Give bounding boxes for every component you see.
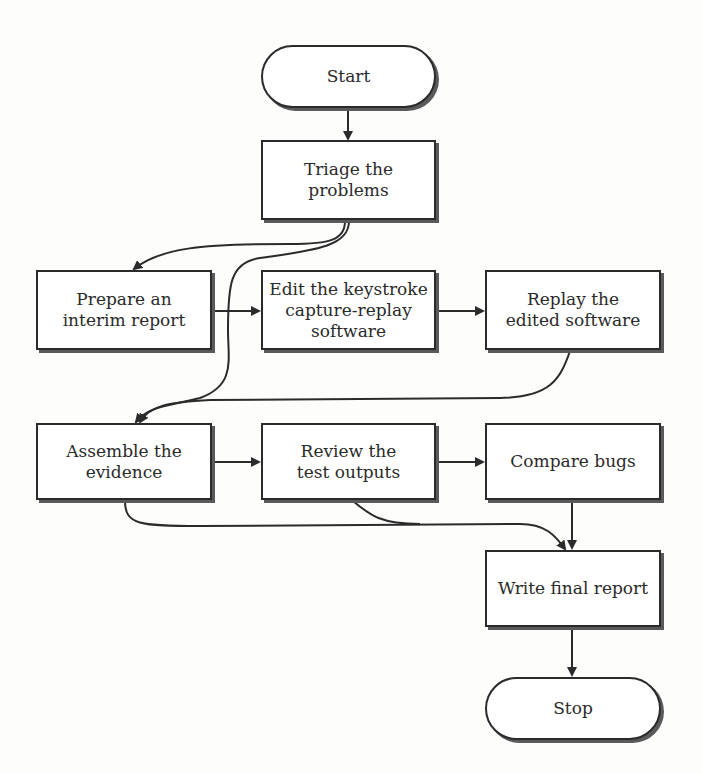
edge-triage-prepare: [134, 221, 345, 269]
compare-process: Compare bugs: [485, 423, 661, 500]
stop-terminal: Stop: [485, 677, 661, 740]
flowchart-canvas: Start Triage the problems Prepare an int…: [0, 0, 702, 773]
assemble-label: Assemble the evidence: [66, 441, 182, 483]
connectors: [0, 0, 702, 773]
edit-label: Edit the keystroke capture-replay softwa…: [269, 279, 427, 342]
replay-process: Replay the edited software: [485, 270, 661, 350]
stop-label: Stop: [553, 698, 593, 719]
edge-replay-assemble: [140, 351, 570, 422]
prepare-process: Prepare an interim report: [36, 270, 212, 350]
replay-label: Replay the edited software: [506, 289, 641, 331]
write-process: Write final report: [485, 550, 661, 627]
triage-label: Triage the problems: [304, 159, 393, 201]
triage-process: Triage the problems: [261, 140, 436, 220]
review-process: Review the test outputs: [261, 423, 436, 500]
start-label: Start: [327, 66, 371, 87]
edge-assemble-write: [125, 501, 565, 549]
review-label: Review the test outputs: [297, 441, 400, 483]
edge-review-write: [353, 501, 420, 524]
prepare-label: Prepare an interim report: [63, 289, 186, 331]
assemble-process: Assemble the evidence: [36, 423, 212, 500]
compare-label: Compare bugs: [510, 451, 635, 472]
edit-process: Edit the keystroke capture-replay softwa…: [261, 270, 436, 350]
start-terminal: Start: [261, 45, 436, 108]
write-label: Write final report: [498, 578, 648, 599]
